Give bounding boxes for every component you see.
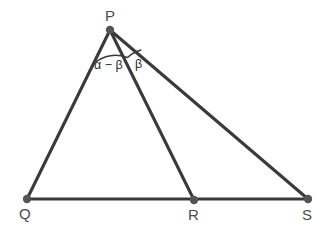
geometry-figure: P Q R S α − β β xyxy=(0,0,330,237)
vertex-dot-Q xyxy=(23,195,31,203)
segment-PS xyxy=(110,30,308,199)
angle-label-RPS: β xyxy=(135,58,142,71)
vertex-dots-group xyxy=(23,26,312,204)
vertex-label-Q: Q xyxy=(19,206,31,221)
geometry-canvas xyxy=(0,0,330,237)
vertex-label-P: P xyxy=(105,8,115,23)
edges-group xyxy=(27,30,308,200)
vertex-dot-S xyxy=(304,195,312,203)
vertex-dot-R xyxy=(190,196,198,204)
vertex-label-S: S xyxy=(302,207,312,222)
vertex-label-R: R xyxy=(188,207,199,222)
segment-PQ xyxy=(27,30,110,199)
angle-label-QPR: α − β xyxy=(94,59,123,72)
vertex-dot-P xyxy=(106,26,114,34)
